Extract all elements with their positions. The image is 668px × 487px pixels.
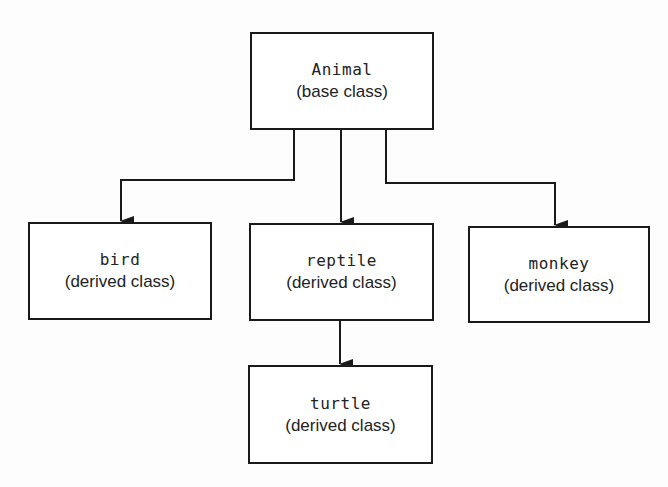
node-bird-kind: (derived class) bbox=[65, 271, 176, 293]
node-turtle-kind: (derived class) bbox=[285, 415, 396, 437]
node-animal: Animal (base class) bbox=[250, 32, 434, 130]
class-hierarchy-diagram: Animal (base class) bird (derived class)… bbox=[0, 0, 668, 487]
node-reptile: reptile (derived class) bbox=[249, 223, 434, 321]
node-turtle: turtle (derived class) bbox=[248, 365, 433, 464]
node-animal-name: Animal bbox=[312, 59, 373, 81]
edge-animal-to-monkey bbox=[386, 129, 555, 225]
node-monkey-kind: (derived class) bbox=[504, 275, 615, 297]
node-reptile-name: reptile bbox=[306, 250, 377, 272]
edge-animal-to-bird bbox=[121, 129, 294, 221]
node-bird: bird (derived class) bbox=[28, 222, 212, 320]
node-animal-kind: (base class) bbox=[296, 81, 388, 103]
node-bird-name: bird bbox=[100, 249, 141, 271]
node-turtle-name: turtle bbox=[310, 393, 371, 415]
node-reptile-kind: (derived class) bbox=[286, 272, 397, 294]
node-monkey: monkey (derived class) bbox=[468, 226, 650, 323]
node-monkey-name: monkey bbox=[529, 253, 590, 275]
